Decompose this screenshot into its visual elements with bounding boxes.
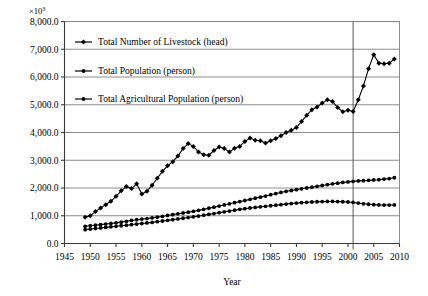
data-point-marker (124, 223, 128, 227)
data-point-marker (243, 199, 247, 203)
data-point-marker (176, 212, 180, 216)
data-point-marker (392, 176, 396, 180)
x-tick-label: 1990 (287, 252, 306, 262)
data-point-marker (346, 180, 350, 184)
data-point-marker (119, 220, 123, 224)
data-point-marker (197, 208, 201, 212)
data-point-marker (320, 200, 324, 204)
data-point-marker (258, 205, 262, 209)
data-point-marker (233, 208, 237, 212)
data-point-marker (331, 200, 335, 204)
data-point-marker (336, 181, 340, 185)
data-point-marker (372, 178, 376, 182)
data-point-marker (289, 189, 293, 193)
x-tick-label: 2000 (338, 252, 357, 262)
data-point-marker (135, 222, 139, 226)
data-point-marker (248, 197, 252, 201)
data-point-marker (341, 181, 345, 185)
data-point-marker (258, 195, 262, 199)
data-point-marker (305, 186, 309, 190)
data-point-marker (351, 179, 355, 183)
data-point-marker (228, 202, 232, 206)
legend-label: Total Number of Livestock (head) (98, 37, 228, 48)
data-point-marker (264, 204, 268, 208)
x-tick-label: 1945 (55, 252, 74, 262)
x-tick-label: 1975 (210, 252, 229, 262)
data-point-marker (124, 219, 128, 223)
data-point-marker (186, 210, 190, 214)
data-point-marker (362, 179, 366, 183)
data-point-marker (161, 219, 165, 223)
data-point-marker (109, 222, 113, 226)
data-point-marker (150, 221, 154, 225)
data-point-marker (372, 203, 376, 207)
data-point-marker (243, 207, 247, 211)
y-tick-label: 8,000.0 (30, 17, 59, 27)
data-point-marker (99, 223, 103, 227)
data-point-marker (94, 223, 98, 227)
data-point-marker (274, 192, 278, 196)
legend-item: Total Agricultural Population (person) (75, 94, 243, 105)
x-tick-label: 1970 (184, 252, 203, 262)
data-point-marker (269, 204, 273, 208)
data-point-marker (341, 200, 345, 204)
chart-canvas: 0.01,000.02,000.03,000.04,000.05,000.06,… (0, 0, 428, 296)
data-point-marker (83, 224, 87, 228)
data-point-marker (212, 205, 216, 209)
x-tick-label: 1955 (107, 252, 126, 262)
data-point-marker (300, 201, 304, 205)
x-tick-label: 1980 (235, 252, 254, 262)
data-point-marker (279, 203, 283, 207)
data-point-marker (228, 209, 232, 213)
data-point-marker (279, 191, 283, 195)
data-point-marker (253, 196, 257, 200)
data-point-marker (202, 207, 206, 211)
data-point-marker (212, 212, 216, 216)
legend-item: Total Number of Livestock (head) (75, 37, 228, 48)
data-point-marker (222, 210, 226, 214)
data-point-marker (392, 203, 396, 207)
data-point-marker (140, 217, 144, 221)
data-point-marker (222, 203, 226, 207)
data-point-marker (325, 183, 329, 187)
data-point-marker (248, 206, 252, 210)
data-point-marker (114, 224, 118, 228)
data-point-marker (356, 201, 360, 205)
unit-exponent: 3 (42, 6, 45, 12)
y-tick-label: 3,000.0 (30, 156, 59, 166)
data-point-marker (176, 217, 180, 221)
data-point-marker (135, 218, 139, 222)
y-tick-label: 1,000.0 (30, 211, 59, 221)
data-point-marker (145, 217, 149, 221)
data-point-marker (382, 203, 386, 207)
data-point-marker (171, 218, 175, 222)
data-point-marker (387, 177, 391, 181)
legend-label: Total Agricultural Population (person) (98, 94, 243, 105)
x-tick-label: 1965 (158, 252, 177, 262)
x-tick-label: 2010 (390, 252, 409, 262)
data-point-marker (336, 200, 340, 204)
data-point-marker (88, 227, 92, 231)
data-point-marker (99, 226, 103, 230)
data-point-marker (109, 225, 113, 229)
data-point-marker (305, 200, 309, 204)
unit-base: ×10 (29, 6, 42, 16)
data-point-marker (82, 97, 86, 101)
data-point-marker (161, 214, 165, 218)
data-point-marker (284, 189, 288, 193)
data-point-marker (207, 206, 211, 210)
data-point-marker (186, 216, 190, 220)
data-point-marker (264, 194, 268, 198)
data-point-marker (253, 206, 257, 210)
y-tick-label: 2,000.0 (30, 183, 59, 193)
data-point-marker (367, 178, 371, 182)
data-point-marker (82, 69, 86, 73)
x-tick-label: 1950 (81, 252, 100, 262)
data-point-marker (238, 200, 242, 204)
data-point-marker (346, 200, 350, 204)
x-axis-title: Year (223, 277, 241, 287)
data-point-marker (377, 203, 381, 207)
data-point-marker (238, 207, 242, 211)
data-point-marker (310, 185, 314, 189)
data-point-marker (284, 202, 288, 206)
